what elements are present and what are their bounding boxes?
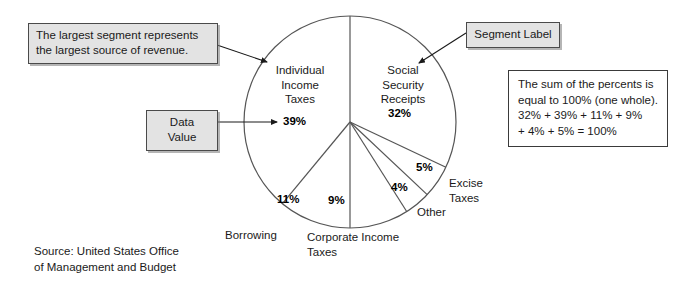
callout-sum-note: The sum of the percents is equal to 100%… [508, 70, 668, 147]
slice-value-individual-income-taxes: 39% [283, 115, 306, 127]
slice-value-social-security-receipts: 32% [388, 107, 411, 119]
callout-data-value: Data Value [146, 110, 218, 151]
slice-label-social-security-receipts: Social Security Receipts [358, 63, 448, 107]
slice-divider-borrowing-individual [282, 122, 350, 204]
pie-chart-figure: The largest segment represents the large… [0, 0, 697, 282]
slice-label-corporate-income-taxes: Corporate Income Taxes [307, 230, 417, 259]
slice-label-individual-income-taxes: Individual Income Taxes [255, 63, 345, 107]
slice-value-other: 4% [391, 181, 408, 193]
source-note: Source: United States Office of Manageme… [34, 243, 179, 275]
callout-segment-label: Segment Label [466, 22, 560, 48]
slice-label-other: Other [417, 205, 446, 220]
slice-label-excise-taxes: Excise Taxes [449, 176, 503, 205]
slice-label-borrowing: Borrowing [225, 228, 277, 243]
arrow-largest-segment [217, 45, 267, 62]
slice-value-borrowing: 11% [277, 193, 299, 205]
slice-value-excise-taxes: 5% [416, 161, 433, 173]
callout-largest-segment: The largest segment represents the large… [28, 23, 218, 64]
slice-value-corporate-income-taxes: 9% [328, 194, 345, 206]
